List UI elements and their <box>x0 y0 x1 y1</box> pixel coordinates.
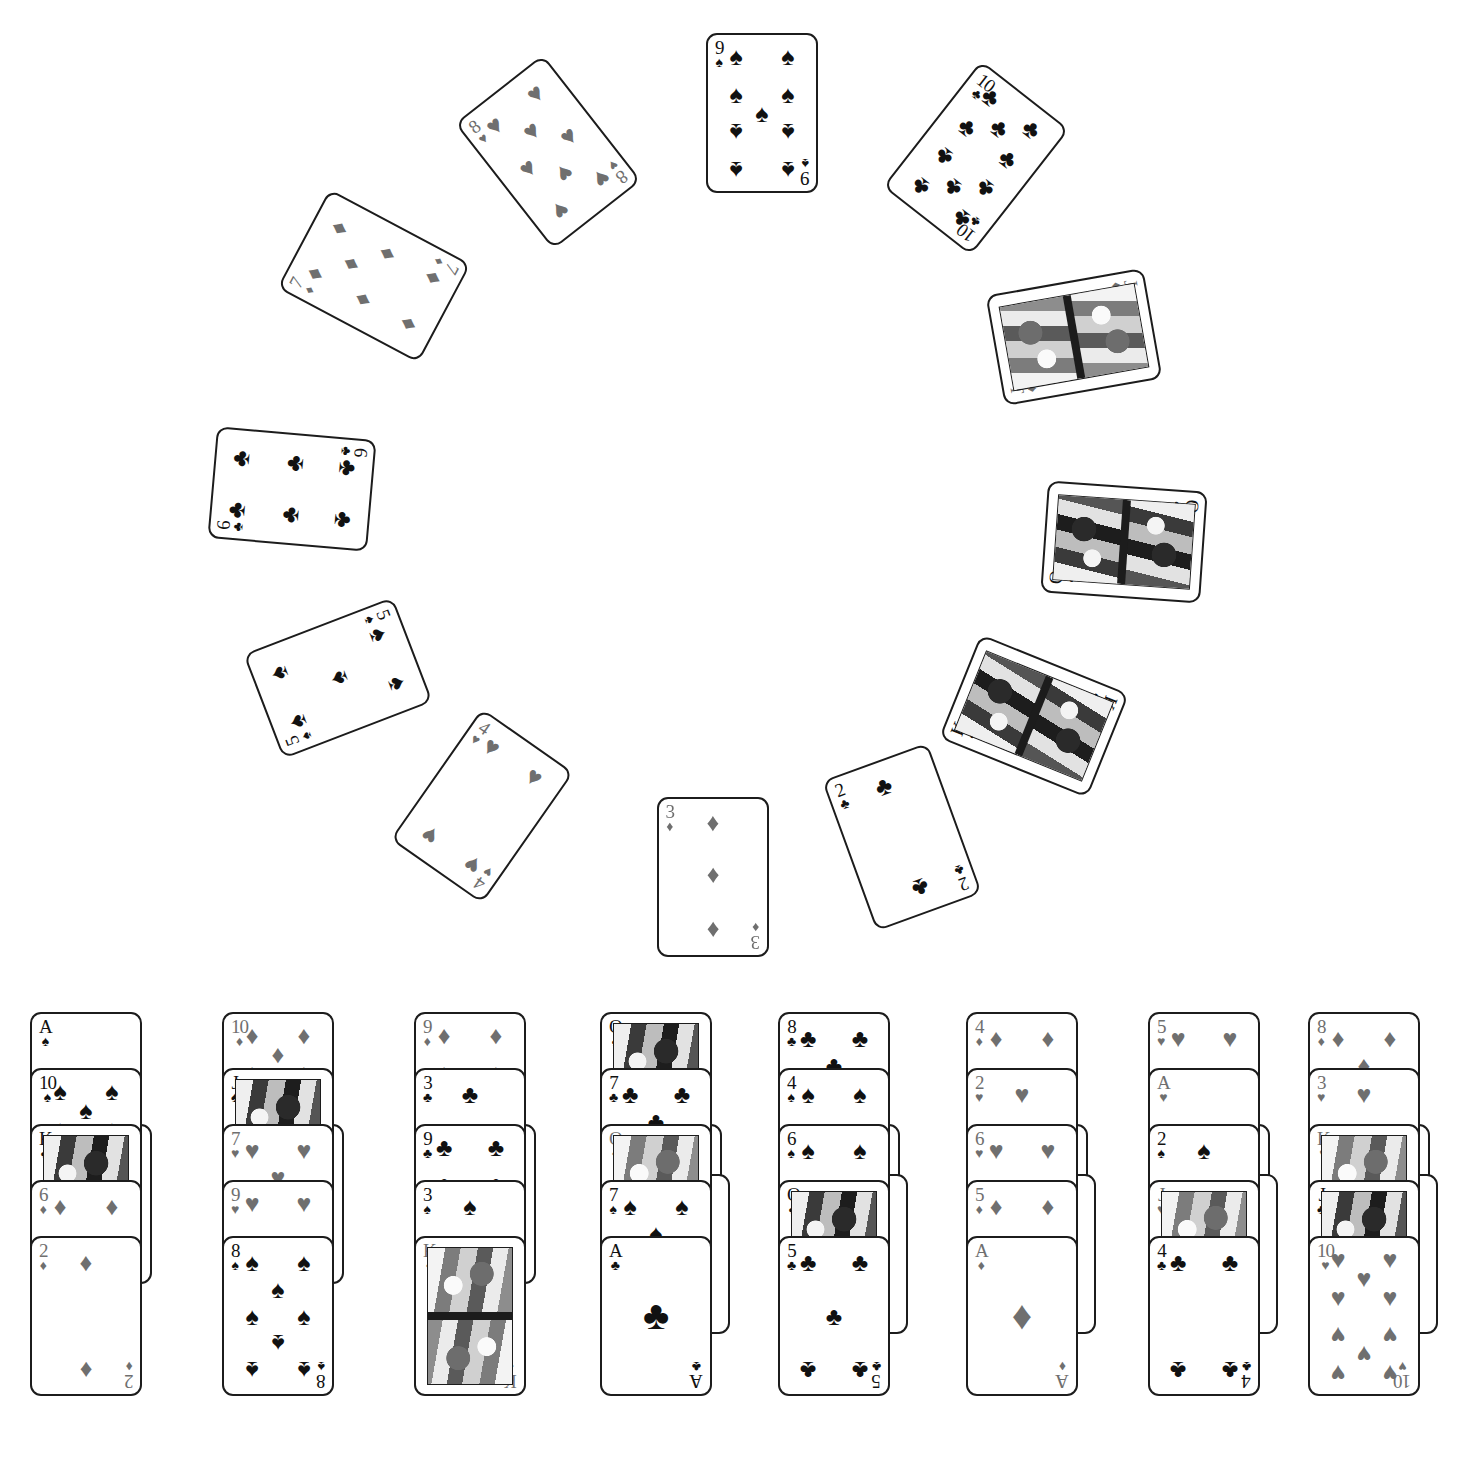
suit-pip: ♥ <box>245 1190 260 1215</box>
pip-layout: ♦ <box>988 1248 1056 1384</box>
tableau-column-4[interactable]: Q♠Q♠7♣7♣♣♣♣♣♣♣♣Q♦Q♦7♠7♠♠♠♠♠♠♠♠A♣A♣♣ <box>600 1012 738 1442</box>
six-of-clubs[interactable]: 6♣6♣♣♣♣♣♣♣ <box>207 426 376 552</box>
suit-pip: ♥ <box>1331 1361 1346 1386</box>
suit-pip: ♣ <box>335 459 361 478</box>
suit-pip: ♥ <box>1171 1025 1186 1050</box>
suit-pip: ♦ <box>348 287 376 310</box>
suit-pip: ♥ <box>1331 1246 1346 1271</box>
pip-layout: ♣♣♣♣ <box>1170 1248 1238 1384</box>
suit-pip: ♦ <box>420 267 448 290</box>
suit-pip: ♠ <box>802 1137 815 1162</box>
suit-pip: ♣ <box>281 454 307 473</box>
card-index-tl: 6♦ <box>39 1187 48 1215</box>
suit-pip: ♦ <box>80 1249 93 1274</box>
card-index-br: 3♦ <box>666 804 675 832</box>
pip-layout: ♦♦♦ <box>679 809 747 945</box>
seven-of-diamonds[interactable]: 7♦7♦♦♦♦♦♦♦♦ <box>277 189 471 363</box>
court-figure <box>954 650 1114 781</box>
suit-pip: ♥ <box>1382 1361 1397 1386</box>
suit-pip: ♦ <box>990 1193 1003 1218</box>
suit-pip: ♣ <box>643 1296 669 1336</box>
card-index-br: 4♣ <box>1242 1361 1251 1389</box>
suit-pip: ♦ <box>324 216 352 239</box>
suit-pip: ♠ <box>624 1193 637 1218</box>
suit-pip: ♦ <box>707 865 720 890</box>
king-of-spades[interactable]: K♠K♠ <box>939 634 1129 798</box>
suit-pip: ♥ <box>551 159 578 188</box>
tableau-column-6[interactable]: 4♦4♦♦♦♦♦2♥2♥♥♥6♥6♥♥♥♥♥♥♥5♦5♦♦♦♦♦♦A♦A♦♦ <box>966 1012 1104 1442</box>
suit-pip: ♣ <box>622 1081 638 1106</box>
suit-pip: ♥ <box>1382 1284 1397 1309</box>
suit-pip: ♠ <box>730 81 743 106</box>
suit-pip: ♥ <box>989 1137 1004 1162</box>
suit-pip: ♦ <box>707 810 720 835</box>
suit-pip: ♦ <box>80 1358 93 1383</box>
suit-pip: ♦ <box>246 1022 259 1047</box>
suit-pip: ♠ <box>730 120 743 145</box>
queen-of-spades[interactable]: Q♠Q♠ <box>1040 481 1207 604</box>
card-index-tl: 7♣ <box>609 1075 618 1103</box>
tableau-column-1[interactable]: A♠A♠♠10♠10♠♠♠♠♠♠♠♠♠♠♠K♣K♣6♦6♦♦♦♦♦♦♦2♦2♦♦… <box>30 1012 168 1442</box>
five-of-clubs[interactable]: 5♣5♣♣♣♣♣♣ <box>778 1236 890 1396</box>
tableau-column-3[interactable]: 9♦9♦♦♦♦♦♦♦♦♦♦3♣3♣♣♣♣9♣9♣♣♣♣♣♣♣♣♣♣3♠3♠♠♠♠… <box>414 1012 552 1442</box>
suit-pip: ♠ <box>246 1304 259 1329</box>
card-game-board: 7♦7♦♦♦♦♦♦♦♦8♥8♥♥♥♥♥♥♥♥♥9♠9♠♠♠♠♠♠♠♠♠♠10♣1… <box>0 0 1476 1464</box>
card-index-tl: 2♠ <box>1157 1131 1166 1159</box>
suit-pip: ♥ <box>245 1137 260 1162</box>
card-index-tl: 8♠ <box>231 1243 240 1271</box>
card-index-tl: A♦ <box>975 1243 988 1271</box>
court-figure <box>427 1247 513 1385</box>
jack-of-diamonds[interactable]: J♦J♦ <box>985 268 1162 406</box>
eight-of-hearts[interactable]: 8♥8♥♥♥♥♥♥♥♥♥ <box>455 54 642 249</box>
card-index-tl: 6♣ <box>215 520 244 532</box>
card-index-tl: 7♥ <box>231 1131 240 1159</box>
card-index-tl: 8♦ <box>1317 1019 1326 1047</box>
card-index-br: 8♠ <box>317 1361 326 1389</box>
king-of-diamonds[interactable]: K♦K♦ <box>414 1236 526 1396</box>
suit-pip: ♠ <box>246 1249 259 1274</box>
suit-pip: ♣ <box>227 449 253 468</box>
card-index-tl: 4♠ <box>787 1075 796 1103</box>
suit-pip: ♠ <box>781 43 794 68</box>
pip-layout: ♣♣ <box>847 761 957 912</box>
suit-pip: ♦ <box>105 1193 118 1218</box>
suit-pip: ♣ <box>800 1358 816 1383</box>
two-of-clubs[interactable]: 2♣2♣♣♣ <box>822 743 982 932</box>
tableau-column-7[interactable]: 5♥5♥♥♥♥♥♥A♥A♥♥2♠2♠♠♠J♥J♥4♣4♣♣♣♣♣ <box>1148 1012 1286 1442</box>
card-index-tl: 5♣ <box>787 1243 796 1271</box>
ten-of-clubs[interactable]: 10♣10♣♣♣♣♣♣♣♣♣♣♣ <box>883 60 1070 255</box>
card-index-tl: 4♦ <box>975 1019 984 1047</box>
ace-of-diamonds[interactable]: A♦A♦♦ <box>966 1236 1078 1396</box>
ten-of-hearts[interactable]: 10♥10♥♥♥♥♥♥♥♥♥♥♥ <box>1308 1236 1420 1396</box>
suit-pip: ♥ <box>514 153 541 182</box>
pip-layout: ♠♠♠♠♠ <box>262 622 413 734</box>
suit-pip: ♦ <box>1012 1296 1032 1336</box>
three-of-diamonds[interactable]: 3♦3♦♦♦♦ <box>657 797 769 957</box>
suit-pip: ♦ <box>297 1022 310 1047</box>
tableau-column-5[interactable]: 8♣8♣♣♣♣♣♣♣♣♣4♠4♠♠♠♠♠6♠6♠♠♠♠♠♠♠Q♣Q♣5♣5♣♣♣… <box>778 1012 916 1442</box>
suit-pip: ♣ <box>852 1025 868 1050</box>
four-of-clubs[interactable]: 4♣4♣♣♣♣♣ <box>1148 1236 1260 1396</box>
card-index-br: 6♣ <box>340 446 369 458</box>
suit-pip: ♠ <box>802 1081 815 1106</box>
tableau-column-2[interactable]: 10♦10♦♦♦♦♦♦♦♦♦♦♦J♠J♠7♥7♥♥♥♥♥♥♥♥9♥9♥♥♥♥♥♥… <box>222 1012 360 1442</box>
four-of-hearts[interactable]: 4♥4♥♥♥♥♥ <box>390 708 574 903</box>
suit-pip: ♠ <box>781 158 794 183</box>
two-of-diamonds[interactable]: 2♦2♦♦♦ <box>30 1236 142 1396</box>
card-index-tl: 3♠ <box>423 1187 432 1215</box>
ace-of-clubs[interactable]: A♣A♣♣ <box>600 1236 712 1396</box>
suit-pip: ♠ <box>297 1249 310 1274</box>
tableau-column-8[interactable]: 8♦8♦♦♦♦♦♦♦♦♦3♥3♥♥♥♥K♥K♥J♣J♣10♥10♥♥♥♥♥♥♥♥… <box>1308 1012 1446 1442</box>
suit-pip: ♦ <box>707 919 720 944</box>
suit-pip: ♦ <box>1041 1025 1054 1050</box>
card-index-tl: A♥ <box>1157 1075 1170 1103</box>
suit-pip: ♥ <box>548 196 575 225</box>
nine-of-spades[interactable]: 9♠9♠♠♠♠♠♠♠♠♠♠ <box>706 33 818 193</box>
five-of-spades[interactable]: 5♠5♠♠♠♠♠♠ <box>243 597 433 759</box>
card-index-tl: 5♦ <box>975 1187 984 1215</box>
suit-pip: ♣ <box>222 501 248 520</box>
suit-pip: ♥ <box>1331 1323 1346 1348</box>
card-index-tl: A♠ <box>39 1019 52 1047</box>
eight-of-spades[interactable]: 8♠8♠♠♠♠♠♠♠♠♠ <box>222 1236 334 1396</box>
suit-pip: ♦ <box>990 1025 1003 1050</box>
